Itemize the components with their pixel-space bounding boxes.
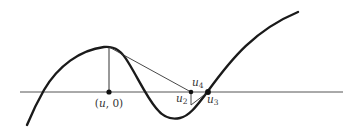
label-u2: u2 <box>176 92 188 106</box>
tangent-line <box>109 47 191 92</box>
function-curve <box>27 12 298 125</box>
newton-method-diagram: (u, 0) u4 u2 u3 <box>0 0 354 131</box>
label-u4: u4 <box>192 76 204 90</box>
point-u2 <box>189 90 194 95</box>
label-u3: u3 <box>207 93 219 107</box>
point-u0 <box>106 89 111 94</box>
label-u0: (u, 0) <box>95 97 123 109</box>
